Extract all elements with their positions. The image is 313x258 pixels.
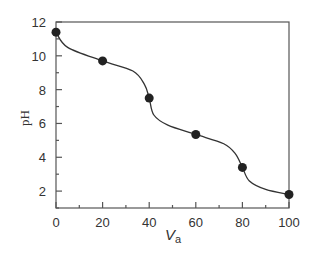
x-tick-label: 100 <box>278 215 300 230</box>
y-tick-label: 10 <box>32 49 46 64</box>
data-point <box>238 163 247 172</box>
y-tick-label: 8 <box>39 83 46 98</box>
axis-ticks <box>56 22 289 208</box>
y-tick-label: 4 <box>39 150 46 165</box>
x-tick-label: 60 <box>189 215 203 230</box>
x-tick-label: 80 <box>235 215 249 230</box>
titration-curve <box>56 32 289 194</box>
x-tick-label: 0 <box>52 215 59 230</box>
x-axis-label: Va <box>165 226 182 245</box>
tick-labels: 02040608010024681012 <box>32 15 300 230</box>
data-point <box>285 190 294 199</box>
data-point <box>145 94 154 103</box>
y-axis-label: pH <box>17 110 32 126</box>
data-point <box>191 130 200 139</box>
y-tick-label: 2 <box>39 184 46 199</box>
ph-titration-chart: 02040608010024681012 pH Va <box>0 0 313 258</box>
data-point <box>52 28 61 37</box>
data-point <box>98 56 107 65</box>
plot-frame <box>56 22 289 208</box>
data-points <box>52 28 294 199</box>
x-tick-label: 40 <box>142 215 156 230</box>
x-tick-label: 20 <box>95 215 109 230</box>
y-tick-label: 12 <box>32 15 46 30</box>
y-tick-label: 6 <box>39 116 46 131</box>
